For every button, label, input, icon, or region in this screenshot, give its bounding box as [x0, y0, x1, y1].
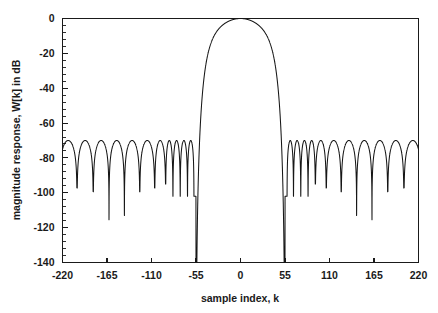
y-tick-label: -40	[39, 82, 54, 94]
y-tick-label: -20	[39, 47, 54, 59]
x-tick-label: -55	[188, 269, 203, 281]
x-tick-label: 0	[238, 269, 244, 281]
plot-background	[0, 0, 438, 313]
y-tick-label: -80	[39, 152, 54, 164]
magnitude-response-plot: -220-165-110-55055110165220 0-20-40-60-8…	[0, 0, 438, 313]
y-tick-label: -120	[33, 221, 54, 233]
x-tick-label: 165	[365, 269, 383, 281]
y-tick-label: -60	[39, 117, 54, 129]
x-tick-label: -220	[52, 269, 73, 281]
x-tick-label: 55	[279, 269, 291, 281]
x-tick-label: 110	[321, 269, 338, 281]
y-axis-title: magnitude response, W[k] in dB	[10, 59, 22, 220]
x-axis-title: sample index, k	[201, 292, 279, 304]
x-tick-label: -110	[141, 269, 162, 281]
y-tick-label: 0	[49, 12, 55, 24]
y-tick-label: -100	[33, 186, 54, 198]
x-tick-label: 220	[410, 269, 428, 281]
x-axis-tick-labels: -220-165-110-55055110165220	[52, 269, 427, 281]
y-tick-label: -140	[33, 256, 54, 268]
x-tick-label: -165	[96, 269, 117, 281]
chart-figure: -220-165-110-55055110165220 0-20-40-60-8…	[0, 0, 438, 313]
